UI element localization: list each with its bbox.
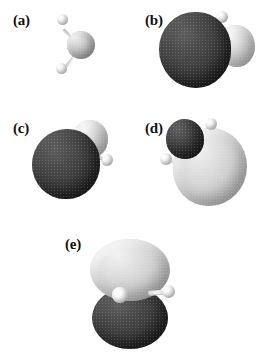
hydrogen-atom-front <box>112 287 128 303</box>
panel-e-stage <box>50 225 220 360</box>
oxygen-atom <box>67 31 95 59</box>
orbital-lobe-dark-small <box>166 119 204 159</box>
panel-d-stage <box>135 110 270 225</box>
hydrogen-atom-lower <box>160 153 172 165</box>
panel-a: (a) <box>0 0 135 110</box>
hydrogen-atom-upper <box>205 118 217 130</box>
panel-b-stage <box>135 0 270 110</box>
hydrogen-atom-lower <box>56 63 67 74</box>
texture-overlay <box>32 129 100 199</box>
panel-b: (b) <box>135 0 270 110</box>
orbital-lobe-dark-large <box>32 129 100 199</box>
panel-c-stage <box>0 110 135 225</box>
panel-d: (d) <box>135 110 270 225</box>
panel-c: (c) <box>0 110 135 225</box>
panel-a-stage <box>0 0 135 110</box>
texture-overlay <box>166 119 204 159</box>
molecular-orbital-figure: (a) (b) <box>0 0 270 360</box>
texture-overlay <box>159 12 231 88</box>
texture-overlay <box>67 31 95 59</box>
panel-e: (e) <box>50 225 220 360</box>
hydrogen-atom-right <box>162 285 175 298</box>
hydrogen-atom-upper <box>57 14 68 25</box>
orbital-lobe-dark-large <box>159 12 231 88</box>
hydrogen-atom-right <box>101 154 113 166</box>
